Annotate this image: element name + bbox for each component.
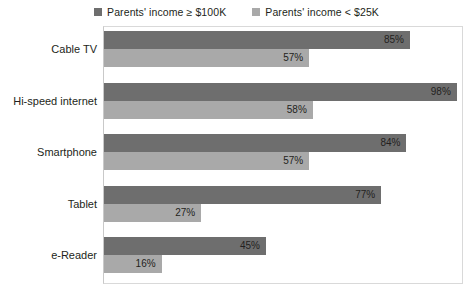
category-label-hi-speed-internet: Hi-speed internet: [0, 83, 97, 119]
bar-group-cable-tv: 85%57%: [104, 31, 464, 67]
legend-swatch-low-income: [252, 8, 260, 16]
legend-label-low-income: Parents' income < $25K: [265, 6, 379, 18]
category-label-cable-tv: Cable TV: [0, 31, 97, 67]
bar-value-label: 16%: [136, 255, 162, 273]
bar-value-label: 27%: [175, 204, 201, 222]
bar-e-reader-low-income: 16%: [104, 255, 162, 273]
bar-value-label: 84%: [380, 134, 406, 152]
legend-swatch-high-income: [94, 8, 102, 16]
bar-value-label: 85%: [384, 31, 410, 49]
category-row-hi-speed-internet: Hi-speed internet98%58%: [0, 83, 473, 119]
bar-group-smartphone: 84%57%: [104, 134, 464, 170]
category-row-smartphone: Smartphone84%57%: [0, 134, 473, 170]
bar-smartphone-high-income: 84%: [104, 134, 406, 152]
category-row-tablet: Tablet77%27%: [0, 186, 473, 222]
bar-group-hi-speed-internet: 98%58%: [104, 83, 464, 119]
bar-value-label: 58%: [287, 101, 313, 119]
grouped-bar-chart: Parents' income ≥ $100K Parents' income …: [0, 0, 473, 290]
legend-label-high-income: Parents' income ≥ $100K: [107, 6, 226, 18]
bar-tablet-low-income: 27%: [104, 204, 201, 222]
category-label-tablet: Tablet: [0, 186, 97, 222]
legend-entry-low-income: Parents' income < $25K: [252, 6, 379, 18]
bar-value-label: 45%: [240, 237, 266, 255]
bar-value-label: 57%: [283, 49, 309, 67]
bar-hi-speed-internet-low-income: 58%: [104, 101, 313, 119]
chart-legend: Parents' income ≥ $100K Parents' income …: [0, 3, 473, 21]
bar-tablet-high-income: 77%: [104, 186, 381, 204]
bar-hi-speed-internet-high-income: 98%: [104, 83, 457, 101]
legend-entry-high-income: Parents' income ≥ $100K: [94, 6, 226, 18]
bar-value-label: 57%: [283, 152, 309, 170]
bar-cable-tv-low-income: 57%: [104, 49, 309, 67]
category-row-e-reader: e-Reader45%16%: [0, 237, 473, 273]
bar-cable-tv-high-income: 85%: [104, 31, 410, 49]
category-label-smartphone: Smartphone: [0, 134, 97, 170]
bar-group-tablet: 77%27%: [104, 186, 464, 222]
bar-value-label: 77%: [355, 186, 381, 204]
bar-value-label: 98%: [431, 83, 457, 101]
bar-smartphone-low-income: 57%: [104, 152, 309, 170]
category-row-cable-tv: Cable TV85%57%: [0, 31, 473, 67]
category-label-e-reader: e-Reader: [0, 237, 97, 273]
bar-e-reader-high-income: 45%: [104, 237, 266, 255]
bar-group-e-reader: 45%16%: [104, 237, 464, 273]
